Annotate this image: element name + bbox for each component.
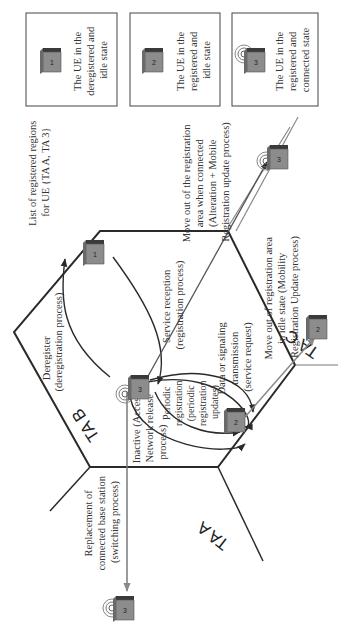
svg-text:3: 3 bbox=[123, 607, 127, 614]
svg-text:3: 3 bbox=[277, 156, 281, 163]
deregister-label: Deregister (deregistration process) bbox=[41, 292, 65, 391]
legend-title: List of registered regions for UE {TA A,… bbox=[27, 118, 51, 226]
legend-line: deregistered and bbox=[85, 26, 96, 96]
move-idle-arrow bbox=[245, 337, 315, 417]
ue-phone-2-tac-icon: 2 bbox=[306, 315, 327, 341]
ue-phone-3-icon: 3 bbox=[128, 375, 149, 401]
registration-state-diagram: 1 The UE in the deregistered and idle st… bbox=[0, 0, 351, 627]
ta-a-label: TA A bbox=[193, 517, 233, 554]
legend-line: connected state bbox=[300, 27, 311, 92]
legend-item-registered-connected: 3 The UE in the registered and connected… bbox=[232, 13, 318, 106]
svg-text:3: 3 bbox=[254, 59, 258, 66]
svg-text:2: 2 bbox=[152, 59, 156, 66]
legend-item-deregistered-idle: 1 The UE in the deregistered and idle st… bbox=[26, 13, 117, 106]
move-connected-label: Move out of the registration area when c… bbox=[181, 122, 232, 242]
svg-text:1: 1 bbox=[93, 251, 97, 258]
legend-line: idle state bbox=[201, 41, 212, 79]
svg-text:2: 2 bbox=[316, 326, 320, 333]
ue-phone-1-icon: 1 bbox=[83, 240, 104, 266]
service-reception-label: Service reception (registration process) bbox=[161, 260, 186, 349]
legend-line: idle state bbox=[98, 41, 109, 79]
legend: 1 The UE in the deregistered and idle st… bbox=[26, 13, 318, 226]
ue-phone-2-icon: 2 bbox=[224, 408, 245, 434]
svg-text:3: 3 bbox=[138, 386, 142, 393]
periodic-registration-label: Periodic registration (periodic registra… bbox=[161, 378, 221, 426]
legend-line: The UE in the bbox=[175, 31, 186, 91]
legend-line: The UE in the bbox=[72, 31, 83, 91]
svg-text:1: 1 bbox=[50, 59, 54, 66]
phone-icon: 3 bbox=[244, 48, 265, 74]
ue-phone-3-tac-icon: 3 bbox=[267, 145, 288, 171]
ue-phone-3-outside-icon: 3 bbox=[113, 596, 134, 622]
replacement-label: Replacement of connected base station (s… bbox=[83, 473, 121, 570]
legend-item-registered-idle: 2 The UE in the registered and idle stat… bbox=[130, 13, 220, 106]
legend-line: The UE in the bbox=[274, 31, 285, 91]
move-idle-label: Move out of registration area in idle st… bbox=[263, 234, 301, 359]
phone-icon: 2 bbox=[142, 48, 163, 74]
svg-text:The UE in the regist: The UE in the registered and connected s… bbox=[274, 27, 311, 92]
deregister-arrow bbox=[63, 259, 110, 377]
legend-line: registered and bbox=[188, 31, 199, 91]
phone-icon: 1 bbox=[40, 48, 61, 74]
data-signaling-label: Data or signaling transmission (service … bbox=[216, 320, 254, 395]
svg-text:2: 2 bbox=[234, 419, 238, 426]
legend-line: registered and bbox=[287, 31, 298, 91]
